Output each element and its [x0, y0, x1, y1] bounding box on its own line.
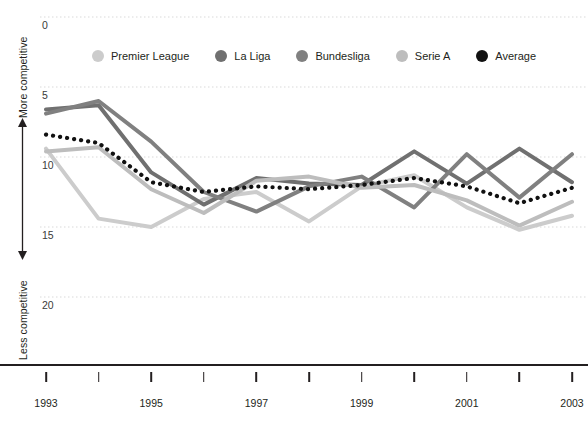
x-axis-tick-mark — [308, 372, 310, 382]
x-axis-tick-mark — [256, 372, 258, 382]
x-axis-tick-label: 1997 — [245, 398, 268, 409]
axis-label-less-competitive: Less competitive — [17, 280, 29, 360]
x-axis-line — [0, 364, 588, 366]
x-axis-tick-mark — [571, 372, 573, 382]
x-axis-tick-label: 1995 — [140, 398, 163, 409]
double-arrow-icon — [16, 118, 29, 260]
x-axis-tick-label: 1999 — [350, 398, 373, 409]
axis-label-more-competitive: More competitive — [17, 36, 29, 118]
x-axis-tick-mark — [519, 372, 521, 382]
x-axis-tick-mark — [413, 372, 415, 382]
x-axis-tick-label: 1993 — [34, 398, 57, 409]
x-axis-tick-mark — [45, 372, 47, 382]
line-chart-plot — [40, 0, 588, 340]
x-axis-tick-label: 2003 — [560, 398, 583, 409]
x-axis-tick-mark — [203, 372, 205, 382]
competitiveness-axis: More competitive Less competitive — [0, 0, 40, 421]
chart-root: More competitive Less competitive Premie… — [0, 0, 588, 421]
x-axis-tick-mark — [361, 372, 363, 382]
x-axis-tick-mark — [150, 372, 152, 382]
x-axis-tick-mark — [466, 372, 468, 382]
series-line — [46, 101, 572, 212]
x-axis-tick-mark — [98, 372, 100, 382]
x-axis-tick-label: 2001 — [455, 398, 478, 409]
